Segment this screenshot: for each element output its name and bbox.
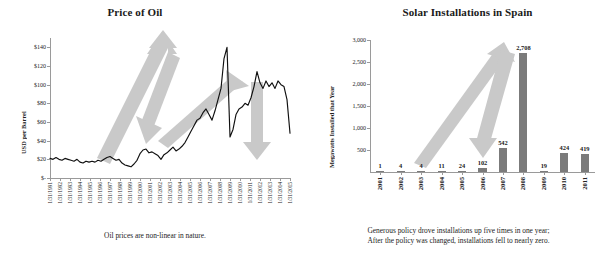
oil-ytick-label: $100: [16, 82, 46, 88]
oil-xtick-mark: [200, 178, 201, 181]
solar-chart-title: Solar Installations in Spain: [340, 6, 595, 18]
solar-xtick-label-2009: 2009: [540, 177, 547, 190]
oil-xtick-label: 1/31/2006: [197, 182, 203, 204]
oil-xtick-label: 1/31/1993: [67, 182, 73, 204]
oil-xtick-label: 1/31/2013: [267, 182, 273, 204]
solar-xtick-label-2006: 2006: [479, 177, 486, 190]
oil-xtick-label: 1/31/1997: [107, 182, 113, 204]
oil-xtick-mark: [160, 178, 161, 181]
solar-xtick-label-2007: 2007: [499, 177, 506, 190]
solar-ytick-label: 2,000: [337, 81, 366, 87]
solar-chart-panel: Solar Installations in Spain Megawatts I…: [310, 0, 605, 270]
oil-xtick-label: 1/31/2002: [157, 182, 163, 204]
solar-bar-value-2010: 424: [560, 144, 570, 151]
solar-xtick-label-2001: 2001: [376, 177, 383, 190]
oil-xtick-mark: [60, 178, 61, 181]
solar-bar-value-2005: 24: [459, 162, 465, 169]
solar-xtick-label-2008: 2008: [519, 177, 526, 190]
oil-xtick-label: 1/31/1992: [57, 182, 63, 204]
solar-caption-line-1: Generous policy drove installations up f…: [318, 226, 599, 236]
solar-xtick-mark: [503, 172, 504, 175]
oil-xtick-mark: [120, 178, 121, 181]
solar-chart-caption: Generous policy drove installations up f…: [318, 226, 599, 245]
oil-price-chart-panel: Price of Oil USD per Barrel $- $20 $40 $…: [0, 0, 310, 270]
oil-xtick-mark: [110, 178, 111, 181]
solar-bar-value-2006: 102: [478, 159, 488, 166]
oil-xtick-label: 1/31/1999: [127, 182, 133, 204]
oil-xtick-label: 1/31/1998: [117, 182, 123, 204]
solar-bar-2007: [499, 148, 507, 172]
oil-xtick-mark: [290, 178, 291, 181]
oil-xtick-mark: [170, 178, 171, 181]
solar-annotation-arrows: [370, 40, 595, 172]
oil-xtick-label: 1/31/2011: [247, 182, 253, 204]
solar-bar-value-2004: 11: [439, 162, 445, 169]
oil-xtick-label: 1/31/2004: [177, 182, 183, 204]
oil-xtick-mark: [70, 178, 71, 181]
oil-xtick-mark: [210, 178, 211, 181]
solar-xtick-label-2003: 2003: [417, 177, 424, 190]
oil-xtick-label: 1/31/1996: [97, 182, 103, 204]
oil-xtick-label: 1/31/2007: [207, 182, 213, 204]
oil-xtick-mark: [190, 178, 191, 181]
solar-bar-2008: [519, 53, 527, 172]
solar-bar-value-2003: 4: [420, 162, 423, 169]
oil-xtick-label: 1/31/2000: [137, 182, 143, 204]
oil-xtick-label: 1/31/1991: [47, 182, 53, 204]
oil-xtick-mark: [230, 178, 231, 181]
solar-ytick-label: 2,500: [337, 59, 366, 65]
oil-xtick-label: 1/31/1995: [87, 182, 93, 204]
oil-ytick-label: $40: [16, 138, 46, 144]
solar-xtick-mark: [442, 172, 443, 175]
oil-ytick-label: $120: [16, 63, 46, 69]
oil-chart-title: Price of Oil: [20, 6, 250, 18]
solar-xtick-label-2005: 2005: [458, 177, 465, 190]
oil-xtick-label: 1/31/2005: [187, 182, 193, 204]
oil-ytick-label: $80: [16, 100, 46, 106]
solar-y-axis-title: Megawatts Installed that Year: [328, 48, 335, 168]
solar-xtick-mark: [523, 172, 524, 175]
solar-bar-2010: [560, 153, 568, 172]
oil-xtick-label: 1/31/2010: [237, 182, 243, 204]
solar-bar-value-2008: 2,708: [516, 44, 530, 51]
solar-bar-2011: [581, 154, 589, 172]
solar-ytick-label: 500: [337, 147, 366, 153]
oil-xtick-label: 1/31/2008: [217, 182, 223, 204]
oil-xtick-mark: [100, 178, 101, 181]
oil-xtick-mark: [140, 178, 141, 181]
solar-ytick-label: 1,000: [337, 125, 366, 131]
oil-xtick-label: 1/31/2009: [227, 182, 233, 204]
oil-xtick-mark: [130, 178, 131, 181]
oil-xtick-mark: [90, 178, 91, 181]
solar-xtick-label-2010: 2010: [560, 177, 567, 190]
oil-price-line: [50, 38, 290, 178]
oil-xtick-mark: [80, 178, 81, 181]
oil-xtick-mark: [260, 178, 261, 181]
solar-caption-line-2: After the policy was changed, installati…: [318, 236, 599, 246]
oil-chart-caption: Oil prices are non-linear in nature.: [30, 231, 280, 241]
solar-bar-value-2001: 1: [379, 162, 382, 169]
solar-xtick-label-2011: 2011: [581, 177, 588, 190]
oil-xtick-label: 1/31/2015: [287, 182, 293, 204]
oil-ytick-label: $20: [16, 156, 46, 162]
solar-bar-value-2002: 4: [399, 162, 402, 169]
oil-xtick-mark: [50, 178, 51, 181]
oil-xtick-mark: [250, 178, 251, 181]
solar-ytick-label: 1,500: [337, 103, 366, 109]
charts-board: Price of Oil USD per Barrel $- $20 $40 $…: [0, 0, 605, 270]
oil-ytick-label: $140: [16, 44, 46, 50]
solar-xtick-mark: [564, 172, 565, 175]
oil-xtick-label: 1/31/2001: [147, 182, 153, 204]
oil-plot-area: $- $20 $40 $60 $80 $100 $120 $140: [50, 38, 290, 178]
solar-xtick-mark: [401, 172, 402, 175]
solar-bar-value-2011: 419: [580, 145, 590, 152]
solar-xtick-label-2002: 2002: [397, 177, 404, 190]
oil-xtick-mark: [270, 178, 271, 181]
solar-xtick-mark: [483, 172, 484, 175]
solar-xtick-mark: [462, 172, 463, 175]
oil-xtick-mark: [240, 178, 241, 181]
oil-xtick-mark: [280, 178, 281, 181]
solar-xtick-mark: [380, 172, 381, 175]
oil-xtick-label: 1/31/1994: [77, 182, 83, 204]
solar-plot-area: 500 1,000 1,500 2,000 2,500 3,000: [370, 40, 595, 172]
